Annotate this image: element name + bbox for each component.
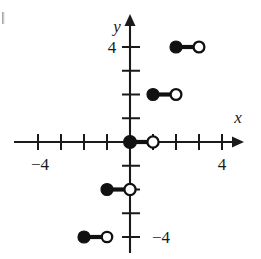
open-endpoint-dot — [102, 232, 112, 242]
x-tick-label-pos4: 4 — [218, 155, 227, 174]
step-segment — [147, 89, 181, 101]
figure-canvas: x y −4 4 4 −4 — [0, 0, 261, 259]
x-axis-label: x — [233, 108, 242, 127]
closed-endpoint-dot — [147, 89, 159, 101]
axes-group — [14, 14, 244, 253]
open-endpoint-dot — [124, 184, 135, 195]
x-tick-label-neg4: −4 — [31, 155, 50, 174]
x-axis-arrowhead — [232, 137, 244, 148]
open-endpoint-dot — [147, 136, 158, 147]
step-function-plot: x y −4 4 4 −4 — [0, 0, 261, 259]
step-segment — [170, 41, 204, 53]
step-segment — [101, 184, 136, 196]
closed-endpoint-dot — [170, 41, 182, 53]
closed-endpoint-dot — [78, 231, 90, 243]
step-segment — [78, 231, 112, 243]
y-axis-label: y — [111, 17, 121, 36]
y-tick-label-pos4: 4 — [108, 38, 117, 57]
open-endpoint-dot — [171, 89, 182, 100]
closed-endpoint-dot — [124, 136, 137, 149]
open-endpoint-dot — [194, 42, 205, 53]
closed-endpoint-dot — [101, 184, 113, 196]
y-tick-label-neg4: −4 — [152, 228, 171, 247]
step-segment — [124, 136, 159, 149]
y-axis-arrowhead — [125, 14, 136, 26]
